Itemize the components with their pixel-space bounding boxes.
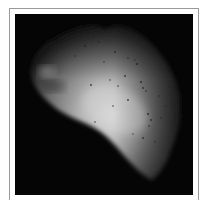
crater-shadow [41, 80, 65, 92]
asteroid-photo [15, 14, 193, 195]
asteroid-image [15, 14, 193, 195]
crater-highlight [38, 66, 56, 78]
